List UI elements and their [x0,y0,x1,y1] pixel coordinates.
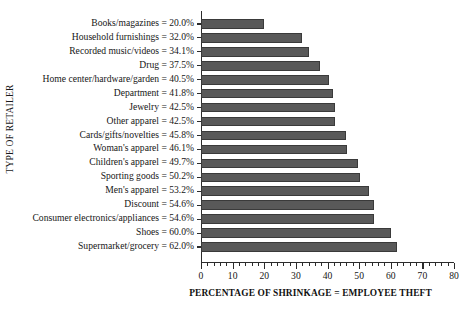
x-tick-minor [397,263,398,266]
x-tick-major [296,263,297,269]
category-label: Jewelry = 42.5% [0,100,194,114]
bar [201,214,374,224]
category-label: Discount = 54.6% [0,197,194,211]
bar [201,159,358,169]
category-label: Children's apparel = 49.7% [0,155,194,169]
x-tick-minor [321,263,322,266]
category-label: Woman's apparel = 46.1% [0,141,194,155]
x-tick-minor [258,263,259,266]
bar [201,200,374,210]
x-tick-label: 10 [218,270,248,281]
bar [201,117,335,127]
bar [201,131,346,141]
bar-row: Cards/gifts/novelties = 45.8% [201,129,454,143]
x-tick-major [264,263,265,269]
bar [201,145,347,155]
x-tick-minor [372,263,373,266]
x-tick-major [201,263,202,269]
bar [201,19,264,29]
x-tick-minor [226,263,227,266]
plot-area: Books/magazines = 20.0%Household furnish… [201,11,454,262]
category-label: Department = 41.8% [0,86,194,100]
x-tick-minor [378,263,379,266]
bar-row: Discount = 54.6% [201,198,454,212]
x-axis-title: PERCENTAGE OF SHRINKAGE = EMPLOYEE THEFT [150,288,471,298]
x-tick-minor [315,263,316,266]
category-label: Consumer electronics/appliances = 54.6% [0,211,194,225]
bar-row: Woman's apparel = 46.1% [201,142,454,156]
bar-row: Department = 41.8% [201,87,454,101]
x-tick-major [422,263,423,269]
category-label: Sporting goods = 50.2% [0,169,194,183]
x-tick-minor [441,263,442,266]
x-tick-minor [384,263,385,266]
x-tick-minor [416,263,417,266]
bar-row: Jewelry = 42.5% [201,101,454,115]
x-tick-minor [346,263,347,266]
x-tick-minor [340,263,341,266]
x-tick-minor [207,263,208,266]
x-tick-minor [353,263,354,266]
bar-chart: TYPE OF RETAILER Books/magazines = 20.0%… [0,0,471,309]
x-tick-minor [403,263,404,266]
bar [201,186,369,196]
x-tick-minor [271,263,272,266]
bar-row: Supermarket/grocery = 62.0% [201,240,454,254]
x-tick-major [359,263,360,269]
bar [201,33,302,43]
x-tick-minor [214,263,215,266]
x-tick-label: 50 [344,270,374,281]
x-tick-label: 0 [186,270,216,281]
bar [201,173,360,183]
category-label: Home center/hardware/garden = 40.5% [0,72,194,86]
bar-row: Men's apparel = 53.2% [201,184,454,198]
x-tick-label: 30 [281,270,311,281]
bar-row: Sporting goods = 50.2% [201,170,454,184]
x-tick-minor [302,263,303,266]
x-tick-minor [334,263,335,266]
x-tick-minor [429,263,430,266]
bar-row: Drug = 37.5% [201,59,454,73]
category-label: Recorded music/videos = 34.1% [0,44,194,58]
x-tick-label: 20 [249,270,279,281]
x-tick-minor [448,263,449,266]
x-tick-minor [309,263,310,266]
x-tick-minor [410,263,411,266]
category-label: Drug = 37.5% [0,58,194,72]
category-label: Shoes = 60.0% [0,225,194,239]
x-tick-minor [277,263,278,266]
bar [201,75,329,85]
bar-row: Consumer electronics/appliances = 54.6% [201,212,454,226]
x-tick-major [328,263,329,269]
bar [201,242,397,252]
category-label: Household furnishings = 32.0% [0,30,194,44]
bar-row: Home center/hardware/garden = 40.5% [201,73,454,87]
category-label: Supermarket/grocery = 62.0% [0,239,194,253]
x-tick-major [391,263,392,269]
x-tick-major [233,263,234,269]
bar [201,89,333,99]
bar-row: Recorded music/videos = 34.1% [201,45,454,59]
bar [201,47,309,57]
bar [201,103,335,113]
bar [201,228,391,238]
x-tick-minor [435,263,436,266]
x-tick-minor [365,263,366,266]
x-tick-minor [239,263,240,266]
x-tick-label: 40 [313,270,343,281]
bar-row: Shoes = 60.0% [201,226,454,240]
x-tick-label: 60 [376,270,406,281]
category-label: Books/magazines = 20.0% [0,16,194,30]
x-tick-label: 70 [407,270,437,281]
x-tick-minor [283,263,284,266]
bar-row: Books/magazines = 20.0% [201,17,454,31]
x-tick-minor [252,263,253,266]
x-tick-minor [220,263,221,266]
bar [201,61,320,71]
category-label: Cards/gifts/novelties = 45.8% [0,128,194,142]
x-tick-minor [290,263,291,266]
x-tick-label: 80 [439,270,469,281]
bar-row: Other apparel = 42.5% [201,115,454,129]
x-tick-major [454,263,455,269]
category-label: Men's apparel = 53.2% [0,183,194,197]
